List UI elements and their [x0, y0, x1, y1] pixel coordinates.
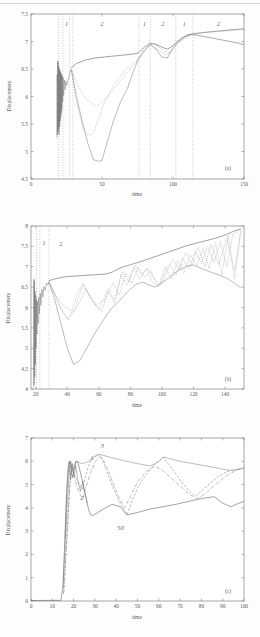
y-tick-label: 2 — [25, 551, 28, 557]
chart-panel-c: 0102030405060708090100 01234567 50312 ti… — [0, 427, 260, 637]
x-axis-title-b: time — [132, 402, 142, 408]
panel-label-a: (a) — [225, 165, 231, 172]
y-tick-labels-a: 4.555.566.577.5 — [21, 11, 28, 182]
region-label: 2 — [59, 241, 62, 247]
plot-area-c — [31, 438, 244, 601]
x-tick-label: 20 — [33, 391, 39, 397]
x-tick-label: 80 — [128, 391, 134, 397]
y-tick-label: 1 — [25, 575, 28, 581]
y-tick-label: 6 — [25, 458, 28, 464]
y-tick-label: 4 — [25, 386, 28, 392]
x-tick-label: 150 — [240, 181, 248, 187]
x-axis-title-c: time — [132, 614, 142, 620]
x-tick-label: 100 — [240, 603, 248, 609]
x-tick-label: 0 — [30, 181, 33, 187]
y-tick-label: 0 — [25, 598, 28, 604]
chart-panel-b: 20406080100120140 44.555.566.577.58 12 t… — [0, 215, 260, 425]
y-tick-label: 4.5 — [21, 366, 28, 372]
x-tick-label: 50 — [135, 603, 141, 609]
x-tick-labels-c: 0102030405060708090100 — [30, 603, 249, 609]
y-tick-labels-b: 44.555.566.577.58 — [21, 223, 28, 392]
chart-annotation: 3 — [100, 442, 105, 450]
y-tick-label: 7.5 — [21, 243, 28, 249]
y-tick-label: 6 — [25, 94, 28, 100]
x-tick-label: 30 — [92, 603, 98, 609]
x-tick-label: 60 — [96, 391, 102, 397]
x-tick-labels-b: 20406080100120140 — [33, 391, 229, 397]
y-tick-label: 4 — [25, 505, 28, 511]
y-tick-labels-c: 01234567 — [25, 435, 28, 604]
x-tick-label: 100 — [169, 181, 177, 187]
y-tick-label: 5.5 — [21, 121, 28, 127]
chart-panel-a: 050100150 4.555.566.577.5 121212 time Di… — [0, 0, 260, 213]
plot-area-b — [31, 226, 244, 389]
y-tick-label: 6.5 — [21, 66, 28, 72]
region-label: 1 — [183, 21, 186, 27]
y-tick-label: 7 — [25, 435, 28, 441]
y-tick-label: 8 — [25, 223, 28, 229]
chart-b-frame — [31, 226, 244, 389]
y-tick-label: 7.5 — [21, 11, 28, 17]
y-tick-label: 5 — [25, 149, 28, 155]
region-label: 2 — [101, 21, 104, 27]
x-tick-label: 0 — [30, 603, 33, 609]
chart-annotation: 2 — [80, 494, 84, 502]
y-tick-label: 7 — [25, 264, 28, 270]
chart-c-canvas: 0102030405060708090100 01234567 50312 ti… — [0, 427, 260, 637]
x-tick-label: 80 — [199, 603, 205, 609]
y-tick-label: 3 — [25, 528, 28, 534]
x-tick-label: 70 — [177, 603, 183, 609]
y-tick-label: 4.5 — [21, 176, 28, 182]
y-tick-label: 5 — [25, 345, 28, 351]
panel-label-c: (c) — [225, 588, 231, 595]
y-tick-label: 7 — [25, 39, 28, 45]
x-tick-labels-a: 050100150 — [30, 181, 249, 187]
region-label: 2 — [217, 21, 220, 27]
y-tick-label: 5.5 — [21, 325, 28, 331]
chart-b-canvas: 20406080100120140 44.555.566.577.58 12 t… — [0, 215, 260, 425]
panel-label-b: (b) — [225, 376, 231, 383]
y-tick-label: 5 — [25, 482, 28, 488]
x-tick-label: 120 — [189, 391, 197, 397]
x-tick-label: 140 — [221, 391, 229, 397]
x-tick-label: 40 — [65, 391, 71, 397]
y-tick-label: 6 — [25, 305, 28, 311]
chart-annotation: 50 — [117, 524, 125, 532]
x-tick-label: 50 — [99, 181, 105, 187]
region-label: 1 — [42, 240, 45, 246]
x-tick-label: 40 — [114, 603, 120, 609]
y-axis-title-a: Displacement — [6, 80, 12, 111]
chart-c-frame — [31, 438, 244, 601]
x-tick-label: 10 — [50, 603, 56, 609]
x-axis-title-a: time — [132, 191, 142, 197]
x-tick-label: 60 — [156, 603, 162, 609]
x-tick-label: 100 — [158, 391, 166, 397]
region-label: 1 — [65, 21, 68, 27]
x-tick-label: 90 — [220, 603, 226, 609]
region-label: 1 — [143, 21, 146, 27]
region-label: 2 — [162, 21, 165, 27]
chart-a-canvas: 050100150 4.555.566.577.5 121212 time Di… — [0, 0, 260, 213]
y-axis-title-c: Displacement — [5, 504, 11, 535]
figure-page: 050100150 4.555.566.577.5 121212 time Di… — [0, 0, 260, 637]
y-tick-label: 6.5 — [21, 284, 28, 290]
x-tick-label: 20 — [71, 603, 77, 609]
chart-annotation: 1 — [90, 454, 94, 462]
y-axis-title-b: Displacement — [5, 292, 11, 323]
